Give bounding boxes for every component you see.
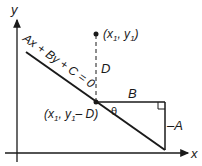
line-equation-label: Ax + By + C = 0 <box>19 30 97 91</box>
y-axis-label: y <box>10 2 19 17</box>
point-label: (x1, y1) <box>103 27 139 43</box>
x-axis-label: x <box>190 146 198 161</box>
distance-diagram: y x Ax + By + C = 0 D (x1, y1) (x1, y1– … <box>0 0 202 166</box>
right-angle-marker <box>158 102 165 109</box>
point-marker <box>94 32 99 37</box>
distance-label: D <box>101 61 110 76</box>
horizontal-leg-label: B <box>128 86 137 101</box>
angle-label: θ <box>111 105 117 117</box>
vertical-leg-label: –A <box>166 118 183 133</box>
foot-point-label: (x1, y1– D) <box>44 107 98 123</box>
